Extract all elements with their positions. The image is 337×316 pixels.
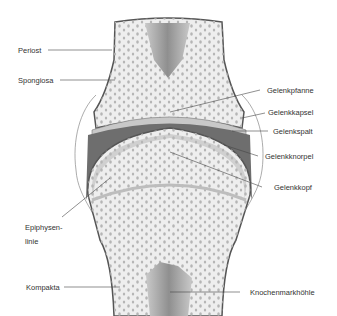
label-epiphysenlinie-2: linie	[25, 237, 38, 246]
label-gelenkkopf: Gelenkkopf	[274, 183, 312, 192]
label-spongiosa: Spongiosa	[18, 76, 53, 85]
label-knochenmarkhoehle: Knochenmarkhöhle	[250, 288, 315, 297]
label-periost: Periost	[18, 46, 41, 55]
label-epiphysenlinie: Epiphysen-	[25, 223, 63, 232]
joint-diagram: Periost Spongiosa Epiphysen- linie Kompa…	[0, 0, 337, 316]
label-gelenkkapsel: Gelenkkapsel	[268, 108, 313, 117]
label-gelenkpfanne: Gelenkpfanne	[267, 86, 314, 95]
label-kompakta: Kompakta	[26, 283, 60, 292]
label-gelenkspalt: Gelenkspalt	[273, 127, 313, 136]
label-gelenkknorpel: Gelenkknorpel	[265, 152, 313, 161]
